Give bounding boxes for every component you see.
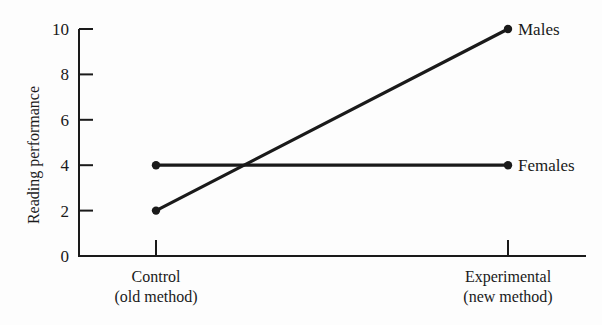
series-females: Females xyxy=(152,156,575,175)
series-label: Males xyxy=(518,20,560,39)
y-tick-label: 4 xyxy=(61,156,70,175)
x-axis: Control(old method)Experimental(new meth… xyxy=(79,240,586,306)
y-tick-label: 8 xyxy=(61,65,70,84)
data-point xyxy=(152,161,160,169)
x-category-label: Control xyxy=(132,268,181,285)
data-point xyxy=(152,206,160,214)
y-axis-title: Reading performance xyxy=(25,86,43,224)
x-category-label: (old method) xyxy=(114,288,197,306)
series-label: Females xyxy=(518,156,575,175)
series-males: Males xyxy=(152,20,560,215)
y-axis: 0246810 xyxy=(52,20,93,266)
data-point xyxy=(504,25,512,33)
x-category-label: (new method) xyxy=(463,288,552,306)
interaction-line-chart: 0246810 Control(old method)Experimental(… xyxy=(0,0,602,325)
data-point xyxy=(504,161,512,169)
x-category-label: Experimental xyxy=(465,268,552,286)
y-tick-label: 10 xyxy=(52,20,69,39)
y-tick-label: 6 xyxy=(61,111,70,130)
series-lines: MalesFemales xyxy=(152,20,575,215)
y-tick-label: 2 xyxy=(61,202,70,221)
y-tick-label: 0 xyxy=(61,247,70,266)
